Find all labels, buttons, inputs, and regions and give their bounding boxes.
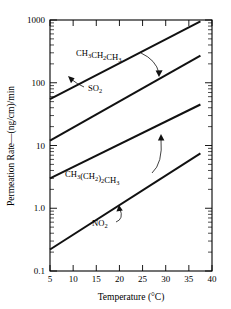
arrow-head-propane (156, 70, 163, 77)
y-tick-label: 100 (32, 78, 46, 88)
x-tick-label: 20 (115, 274, 125, 284)
y-axis-title-unit: (ng/cm)/min (6, 86, 17, 134)
series-label-NO2: NO2 (92, 218, 108, 229)
y-axis-title-main: Permeation Rate (6, 143, 16, 206)
arrow-head-butane (158, 134, 165, 141)
y-axis-title-dash: — (6, 133, 16, 144)
y-tick-label: 10 (36, 141, 46, 151)
x-axis-tick-labels: 510152025303540 (48, 274, 217, 284)
arrow-head-so2 (68, 76, 75, 83)
series-line-CH3CH2CH3 (50, 21, 200, 99)
x-tick-label: 35 (184, 274, 194, 284)
arrow-butane (152, 139, 161, 173)
x-tick-label: 30 (161, 274, 171, 284)
series-annotation-labels: CH3CH2CH3SO2CH3(CH2)2CH3NO2 (65, 48, 121, 229)
y-tick-label: 0.1 (34, 266, 45, 276)
y-axis-title-text: Permeation Rate—(ng/cm)/min (6, 86, 17, 206)
x-axis-title-text: Temperature (°C) (98, 292, 165, 303)
series-label-CH3(CH2)2CH3: CH3(CH2)2CH3 (65, 169, 119, 186)
annotation-arrows (68, 53, 164, 222)
x-tick-label: 25 (138, 274, 148, 284)
y-tick-label: 1.0 (34, 203, 46, 213)
x-tick-label: 5 (48, 274, 53, 284)
y-axis-title: Permeation Rate—(ng/cm)/min (6, 86, 17, 206)
chart-figure: 0.11.0101001000 510152025303540 CH3CH2CH… (0, 0, 231, 309)
series-label-SO2: SO2 (88, 83, 102, 94)
series-line-SO2 (50, 56, 200, 141)
y-tick-label: 1000 (27, 15, 46, 25)
x-tick-label: 15 (92, 274, 102, 284)
series-label-CH3CH2CH3: CH3CH2CH3 (76, 48, 121, 63)
x-tick-label: 40 (208, 274, 218, 284)
permeation-rate-log-chart: 0.11.0101001000 510152025303540 CH3CH2CH… (0, 0, 231, 309)
x-axis-title: Temperature (°C) (98, 292, 165, 303)
y-axis-tick-labels: 0.11.0101001000 (27, 15, 46, 276)
data-series-group (50, 21, 200, 249)
x-tick-label: 10 (69, 274, 79, 284)
arrow-propane (141, 53, 159, 73)
